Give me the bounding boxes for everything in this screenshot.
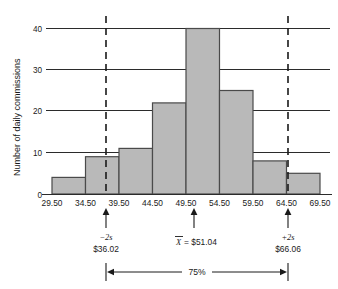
y-axis-title: Number of daily commissions — [12, 58, 22, 176]
y-tick-label-40: 40 — [33, 25, 43, 34]
x-tick-label-39.50: 39.50 — [109, 198, 130, 208]
bar-49.50-54.50 — [186, 29, 220, 195]
y-tick-label-10: 10 — [33, 149, 43, 158]
x-tick-label-49.50: 49.50 — [176, 198, 197, 208]
y-tick-label-20: 20 — [33, 107, 43, 116]
y-tick-label-30: 30 — [33, 66, 43, 75]
annotation-mean-value: = $51.04 — [184, 237, 217, 247]
x-tick-label-44.50: 44.50 — [142, 198, 163, 208]
bar-39.50-44.50 — [119, 148, 153, 194]
bar-54.50-59.50 — [220, 91, 254, 195]
histogram-chart: 40 30 20 10 0 Number of daily commission… — [0, 0, 338, 289]
x-tick-label-29.50: 29.50 — [42, 198, 63, 208]
annotation-minus-2s-value: $36.02 — [93, 244, 119, 254]
x-tick-label-64.50: 64.50 — [276, 198, 297, 208]
bar-34.50-39.50 — [86, 157, 120, 194]
x-tick-label-59.50: 59.50 — [243, 198, 264, 208]
x-tick-label-34.50: 34.50 — [75, 198, 96, 208]
bar-29.50-34.50 — [52, 177, 86, 194]
bracket-label-75-percent: 75% — [188, 267, 206, 277]
bar-59.50-64.50 — [253, 161, 287, 194]
annotation-mean-symbol: X — [175, 238, 182, 247]
x-tick-label-54.50: 54.50 — [209, 198, 230, 208]
bar-44.50-49.50 — [153, 103, 187, 194]
bar-64.50-69.50 — [287, 173, 321, 194]
annotation-minus-2s-symbol: −2s — [99, 233, 112, 242]
histogram-figure: 40 30 20 10 0 Number of daily commission… — [0, 0, 338, 289]
annotation-plus-2s-symbol: +2s — [281, 233, 294, 242]
annotation-plus-2s-value: $66.06 — [275, 244, 301, 254]
x-tick-label-69.50: 69.50 — [310, 198, 331, 208]
